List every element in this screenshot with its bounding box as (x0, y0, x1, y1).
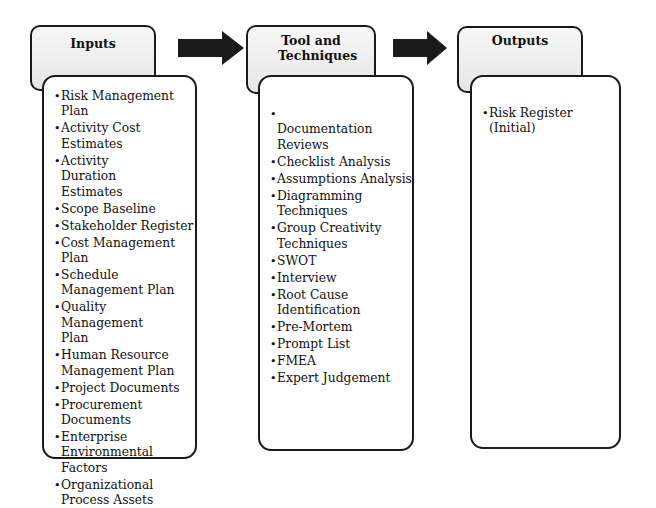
inputs-list-box: Risk Management Plan Activity Cost Estim… (42, 75, 197, 459)
list-item: Activity Cost Estimates (54, 121, 194, 152)
right-arrow-icon (393, 31, 449, 65)
list-item: Activity Duration Estimates (54, 154, 166, 200)
list-item: Stakeholder Register (54, 219, 194, 234)
list-item: Procurement Documents (54, 398, 151, 429)
list-item: SWOT (270, 254, 412, 269)
list-item: Risk Management Plan (54, 89, 194, 120)
tools-list: Documentation Reviews Checklist Analysis… (270, 107, 412, 388)
list-item: Cost Management Plan (54, 236, 194, 267)
list-item: Schedule Management Plan (54, 268, 186, 299)
list-item: Scope Baseline (54, 202, 194, 217)
list-item: Expert Judgement (270, 371, 412, 386)
tools-title: Tool and Techniques (248, 33, 374, 63)
list-item: Project Documents (54, 381, 194, 396)
list-item: Group Creativity Techniques (270, 221, 382, 252)
list-item: Interview (270, 271, 412, 286)
list-item: Human Resource Management Plan (54, 348, 179, 379)
list-item: Documentation Reviews (270, 107, 372, 153)
list-item: Organizational Process Assets (54, 478, 196, 508)
outputs-list: Risk Register (Initial) (482, 106, 620, 138)
list-item: Root Cause Identification (270, 288, 367, 319)
list-item: Enterprise Environmental Factors (54, 430, 191, 476)
right-arrow-icon (178, 31, 246, 65)
list-item: Checklist Analysis (270, 155, 412, 170)
list-item: Pre-Mortem (270, 320, 412, 335)
tools-list-box: Documentation Reviews Checklist Analysis… (258, 75, 414, 451)
outputs-title: Outputs (459, 33, 581, 48)
list-item: Assumptions Analysis (270, 172, 412, 187)
list-item: FMEA (270, 354, 412, 369)
list-item: Quality Management Plan (54, 300, 171, 346)
inputs-list: Risk Management Plan Activity Cost Estim… (54, 89, 194, 508)
inputs-title: Inputs (32, 36, 154, 51)
list-item: Risk Register (Initial) (482, 106, 620, 137)
list-item: Diagramming Techniques (270, 189, 367, 220)
outputs-list-box: Risk Register (Initial) (470, 75, 621, 449)
list-item: Prompt List (270, 337, 412, 352)
